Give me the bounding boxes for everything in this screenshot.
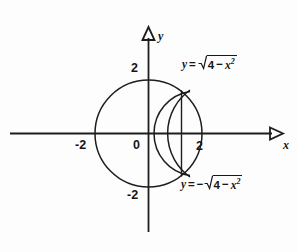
upper-eq-radical: 4−x2: [198, 54, 237, 71]
radical-tick-icon: [198, 55, 207, 69]
y-axis: [143, 27, 155, 232]
y-tick-negative-2: -2: [127, 189, 138, 202]
lower-eq-sign: −: [197, 178, 204, 190]
x-axis-label: x: [283, 139, 289, 151]
lower-curve-equation: y=− 4−x2: [181, 174, 242, 191]
lower-eq-radical: 4−x2: [204, 174, 243, 191]
upper-radicand-op: −: [214, 58, 225, 70]
origin-label: 0: [133, 139, 140, 152]
lower-radicand-exp: 2: [236, 177, 240, 186]
plot-canvas: [0, 0, 297, 252]
lower-eq-equals: =: [186, 178, 197, 190]
y-axis-label: y: [158, 30, 163, 42]
x-tick-negative-2: -2: [75, 139, 86, 152]
y-tick-positive-2: 2: [131, 62, 138, 75]
radical-tick-icon: [204, 175, 213, 189]
math-figure: y x 2 -2 -2 2 0 y= 4−x2 y=− 4−x2: [0, 0, 297, 252]
lower-radicand-a: 4: [214, 178, 220, 190]
lower-radicand-op: −: [220, 178, 231, 190]
x-tick-positive-2: 2: [196, 140, 203, 153]
upper-radicand-exp: 2: [231, 57, 235, 66]
upper-curve-equation: y= 4−x2: [182, 54, 237, 71]
upper-eq-radicand: 4−x2: [207, 55, 237, 71]
lower-eq-radicand: 4−x2: [213, 175, 243, 191]
x-axis: [10, 128, 283, 140]
upper-eq-equals: =: [187, 58, 198, 70]
